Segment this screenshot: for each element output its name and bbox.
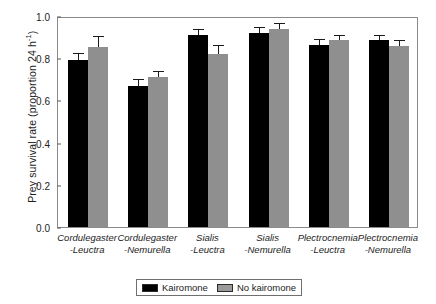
error-bar (98, 37, 99, 46)
y-axis-tick-label: 0.0 (24, 223, 50, 234)
bar-group (178, 18, 238, 227)
y-axis-tick-mark (57, 59, 61, 60)
legend-swatch-no-kairomone (217, 284, 233, 292)
error-bar (158, 72, 159, 77)
error-bar-cap (334, 35, 345, 36)
y-axis-tick-mark (57, 101, 61, 102)
error-bar-cap (314, 39, 325, 40)
y-axis-tick-mark (57, 228, 61, 229)
bar-groups (58, 18, 417, 227)
bar-group (118, 18, 178, 227)
legend-label: No kairomone (237, 282, 296, 293)
error-bar (339, 36, 340, 41)
x-axis-category-labels: Cordulegaster-LeuctraCordulegaster-Nemur… (57, 232, 418, 266)
bar-kairomone (68, 60, 88, 227)
category-label-line1: Sialis (196, 232, 219, 243)
bar-kairomone (188, 35, 208, 227)
figure-bar-chart: Prey survival rate (proportion 24 h-1) 0… (0, 0, 436, 304)
bar-no-kairomone (208, 54, 228, 227)
y-axis-tick-label: 1.0 (24, 12, 50, 23)
y-axis-tick-mark (57, 17, 61, 18)
category-label-line2: -Nemurella (352, 244, 424, 256)
bar-no-kairomone (269, 29, 289, 227)
bar-no-kairomone (329, 40, 349, 227)
bar-kairomone (128, 86, 148, 227)
y-axis-tick-label: 0.6 (24, 96, 50, 107)
error-bar-cap (254, 27, 265, 28)
x-axis-category-label: Plectrocnemia-Nemurella (352, 232, 424, 256)
bar-no-kairomone (148, 77, 168, 227)
error-bar-cap (193, 29, 204, 30)
bar-group (58, 18, 118, 227)
error-bar-cap (394, 40, 405, 41)
error-bar (259, 28, 260, 33)
error-bar (78, 54, 79, 60)
error-bar (138, 80, 139, 86)
y-axis-tick-mark (57, 185, 61, 186)
error-bar-cap (93, 36, 104, 37)
error-bar (399, 41, 400, 46)
error-bar-cap (73, 53, 84, 54)
category-label-line1: Sialis (256, 232, 279, 243)
y-axis-tick-mark (57, 143, 61, 144)
y-axis-tick-label: 0.2 (24, 180, 50, 191)
bar-kairomone (249, 33, 269, 227)
bar-group (239, 18, 299, 227)
error-bar-cap (153, 71, 164, 72)
legend-item: Kairomone (142, 282, 208, 293)
error-bar-cap (213, 45, 224, 46)
error-bar (218, 46, 219, 54)
error-bar (379, 36, 380, 41)
bar-no-kairomone (389, 46, 409, 227)
category-label-line1: Cordulegaster (117, 232, 177, 243)
chart-legend: KairomoneNo kairomone (136, 279, 302, 296)
bar-no-kairomone (88, 47, 108, 227)
bar-kairomone (309, 45, 329, 228)
error-bar-cap (133, 79, 144, 80)
bar-group (299, 18, 359, 227)
y-axis-tick-label: 0.4 (24, 138, 50, 149)
error-bar-cap (374, 35, 385, 36)
bar-kairomone (369, 40, 389, 227)
error-bar (198, 30, 199, 35)
y-axis-tick-labels: 0.00.20.40.60.81.0 (22, 0, 50, 304)
y-axis-tick-label: 0.8 (24, 54, 50, 65)
plot-area (57, 17, 418, 228)
category-label-line1: Cordulegaster (57, 232, 117, 243)
legend-label: Kairomone (162, 282, 208, 293)
legend-item: No kairomone (217, 282, 296, 293)
bar-group (359, 18, 419, 227)
error-bar (319, 40, 320, 45)
category-label-line1: Plectrocnemia (298, 232, 358, 243)
category-label-line1: Plectrocnemia (358, 232, 418, 243)
error-bar-cap (274, 23, 285, 24)
error-bar (279, 24, 280, 28)
legend-swatch-kairomone (142, 284, 158, 292)
